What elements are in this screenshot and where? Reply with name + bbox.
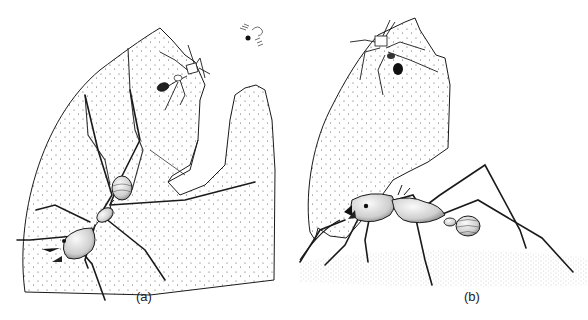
ground [300,250,588,287]
panel-label-b: (b) [464,289,480,304]
figure-canvas [0,0,588,320]
panel-a [17,24,275,300]
carrier-ant-head [351,194,395,222]
panel-label-a: (a) [136,289,152,304]
panel-b [300,18,588,287]
ant-gaster [112,176,132,200]
phorid-fly [240,24,263,46]
